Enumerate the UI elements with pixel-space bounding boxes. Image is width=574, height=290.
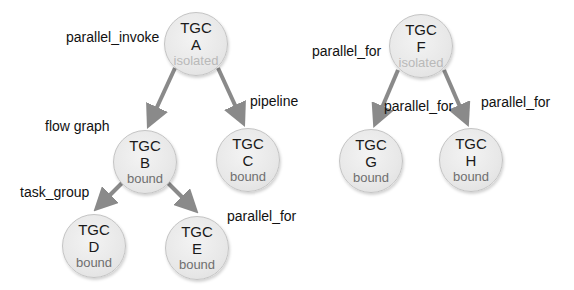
node-title: TGC [355, 136, 387, 153]
node-letter: G [365, 153, 377, 170]
node-state: bound [230, 169, 266, 185]
node-letter: B [140, 154, 150, 171]
edge-b-d [102, 183, 122, 203]
node-title: TGC [180, 19, 212, 36]
label-parallel-for-f: parallel_for [312, 43, 381, 59]
node-title: TGC [405, 21, 437, 38]
label-parallel-for-h: parallel_for [481, 94, 550, 110]
node-c[interactable]: TGC C bound [216, 128, 280, 192]
node-f[interactable]: TGC F isolated [389, 14, 453, 78]
label-task-group: task_group [20, 184, 89, 200]
node-letter: A [191, 36, 201, 53]
node-title: TGC [232, 135, 264, 152]
node-state: bound [76, 255, 112, 271]
node-title: TGC [129, 137, 161, 154]
node-letter: D [89, 238, 100, 255]
label-parallel-invoke: parallel_invoke [66, 29, 159, 45]
node-letter: E [192, 240, 202, 257]
node-title: TGC [78, 221, 110, 238]
node-letter: F [416, 38, 425, 55]
edge-a-c [218, 68, 240, 116]
edge-b-e [168, 183, 190, 205]
node-state: bound [179, 257, 215, 273]
edge-a-b [152, 68, 175, 118]
label-parallel-for-g: parallel_for [384, 98, 453, 114]
node-g[interactable]: TGC G bound [339, 129, 403, 193]
node-state: isolated [174, 53, 219, 69]
node-state: bound [127, 171, 163, 187]
node-h[interactable]: TGC H bound [439, 128, 503, 192]
label-flow-graph: flow graph [45, 118, 110, 134]
node-state: isolated [399, 55, 444, 71]
node-letter: H [466, 152, 477, 169]
node-state: bound [353, 170, 389, 186]
node-title: TGC [181, 223, 213, 240]
label-pipeline: pipeline [250, 93, 298, 109]
node-b[interactable]: TGC B bound [113, 130, 177, 194]
node-d[interactable]: TGC D bound [62, 214, 126, 278]
label-parallel-for-e: parallel_for [227, 208, 296, 224]
node-e[interactable]: TGC E bound [165, 216, 229, 280]
node-a[interactable]: TGC A isolated [164, 12, 228, 76]
node-letter: C [243, 152, 254, 169]
node-state: bound [453, 169, 489, 185]
node-title: TGC [455, 135, 487, 152]
